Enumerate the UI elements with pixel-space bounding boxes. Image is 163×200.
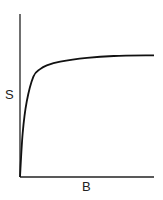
saturation-curve	[20, 55, 154, 177]
x-axis-label: B	[82, 179, 91, 194]
y-axis-label: S	[5, 87, 14, 102]
chart-canvas	[0, 0, 163, 200]
